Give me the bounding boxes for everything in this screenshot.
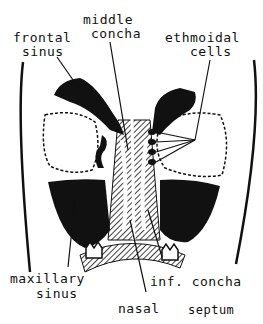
label-frontal-sinus-line1: frontal: [13, 31, 71, 44]
label-inf-concha: inf. concha: [150, 275, 242, 288]
label-nasal-septum-line1: nasal: [118, 302, 160, 315]
label-maxillary-sinus-line2: sinus: [36, 287, 78, 300]
label-middle-concha-line2: concha: [91, 27, 141, 40]
label-frontal-sinus-line2: sinus: [22, 45, 64, 58]
tooth-right: [162, 244, 178, 260]
nasal-septum: [132, 115, 134, 240]
face-outline-left: [21, 62, 30, 272]
maxillary-sinus-left: [48, 179, 110, 248]
maxillary-sinus-right: [160, 180, 220, 243]
label-ethmoidal-cells-line2: cells: [190, 45, 232, 58]
label-maxillary-sinus-line1: maxillary: [10, 272, 85, 285]
face-outline-right: [236, 60, 256, 264]
label-ethmoidal-cells-line1: ethmoidal: [165, 31, 240, 44]
orbit-left: [43, 113, 98, 173]
label-middle-concha-line1: middle: [83, 13, 133, 26]
frontal-sinus-right: [152, 88, 196, 135]
frontal-sinus-left: [54, 78, 124, 135]
label-nasal-septum-line2: septum: [188, 304, 234, 317]
